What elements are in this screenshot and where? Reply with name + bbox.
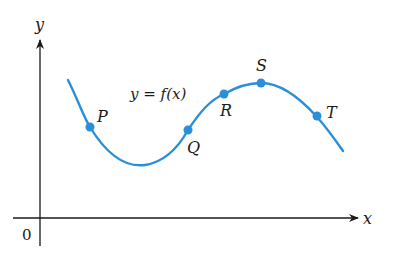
point-s <box>257 79 266 88</box>
point-t <box>313 112 322 121</box>
point-p-label: P <box>96 107 108 126</box>
point-r <box>220 90 229 99</box>
function-curve <box>68 80 343 165</box>
point-q <box>184 126 193 135</box>
point-p <box>86 123 95 132</box>
curve-label: y = f(x) <box>129 85 186 103</box>
function-graph: x y 0 y = f(x) P Q R S T <box>0 0 393 253</box>
origin-label: 0 <box>22 226 32 244</box>
point-r-label: R <box>219 101 232 120</box>
point-q-label: Q <box>187 138 200 157</box>
x-axis-label: x <box>363 209 372 228</box>
point-t-label: T <box>326 103 338 122</box>
y-axis-label: y <box>34 15 45 34</box>
point-s-label: S <box>256 56 267 75</box>
